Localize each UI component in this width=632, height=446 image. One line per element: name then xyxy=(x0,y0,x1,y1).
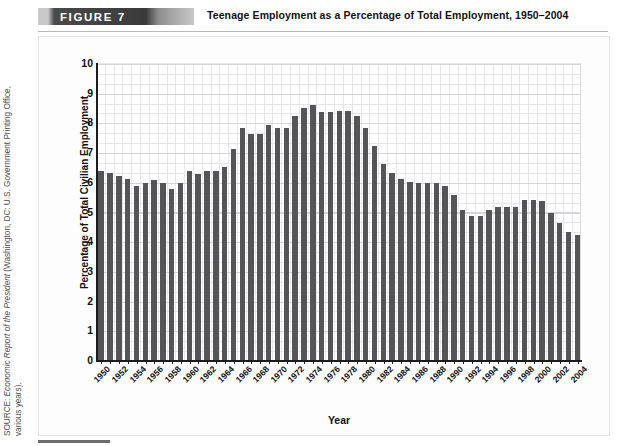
x-tickmark-1985 xyxy=(410,360,411,364)
x-tickmark-1968 xyxy=(260,360,261,364)
x-tickmark-2003 xyxy=(569,360,570,364)
x-tick-1976: 1976 xyxy=(321,364,342,385)
x-tickmark-1957 xyxy=(163,360,164,364)
x-tick-1964: 1964 xyxy=(215,364,236,385)
bar-1993 xyxy=(478,216,483,360)
bar-1987 xyxy=(425,183,430,360)
x-tick-1992: 1992 xyxy=(462,364,483,385)
bar-1960 xyxy=(187,171,192,360)
x-tickmark-1994 xyxy=(489,360,490,364)
x-tickmark-1964 xyxy=(225,360,226,364)
x-tickmark-1971 xyxy=(287,360,288,364)
x-tickmark-1962 xyxy=(207,360,208,364)
x-tickmark-1953 xyxy=(128,360,129,364)
x-tick-1988: 1988 xyxy=(427,364,448,385)
x-tick-2004: 2004 xyxy=(568,364,589,385)
x-tick-1972: 1972 xyxy=(286,364,307,385)
x-tickmark-1992 xyxy=(472,360,473,364)
bar-1989 xyxy=(442,186,447,360)
bar-2001 xyxy=(548,213,553,360)
bar-1965 xyxy=(231,149,236,360)
bar-1984 xyxy=(398,179,403,360)
bar-1983 xyxy=(389,173,394,360)
source-note: SOURCE: Economic Report of the President… xyxy=(0,36,29,436)
x-tickmark-1993 xyxy=(481,360,482,364)
chart-panel: 012345678910 Percentage of Total Civilia… xyxy=(38,36,610,436)
x-tickmark-1959 xyxy=(181,360,182,364)
x-tickmark-1982 xyxy=(384,360,385,364)
x-tick-1966: 1966 xyxy=(233,364,254,385)
bar-1974 xyxy=(310,105,315,360)
bar-1956 xyxy=(151,180,156,360)
x-tick-2002: 2002 xyxy=(550,364,571,385)
bar-1979 xyxy=(354,116,359,360)
x-tickmark-2004 xyxy=(578,360,579,364)
bar-1954 xyxy=(134,186,139,360)
x-tick-1956: 1956 xyxy=(145,364,166,385)
figure-badge: FIGURE 7 xyxy=(38,8,194,25)
x-tick-1974: 1974 xyxy=(304,364,325,385)
x-tickmark-1976 xyxy=(331,360,332,364)
x-tickmark-1958 xyxy=(172,360,173,364)
figure-title: Teenage Employment as a Percentage of To… xyxy=(207,9,569,21)
bar-1962 xyxy=(204,171,209,360)
footer-rule xyxy=(38,440,110,443)
bar-1997 xyxy=(513,207,518,360)
x-tickmark-1967 xyxy=(251,360,252,364)
x-tickmark-1995 xyxy=(498,360,499,364)
x-tickmark-1969 xyxy=(269,360,270,364)
bar-1995 xyxy=(495,207,500,360)
x-tickmark-1965 xyxy=(234,360,235,364)
x-tick-1952: 1952 xyxy=(110,364,131,385)
source-title-italic: Economic Report of the President xyxy=(3,274,12,396)
bar-1951 xyxy=(107,173,112,360)
bar-1999 xyxy=(531,200,536,360)
x-tickmark-1979 xyxy=(357,360,358,364)
bar-1966 xyxy=(240,128,245,360)
x-tickmark-1980 xyxy=(366,360,367,364)
x-tickmark-1960 xyxy=(190,360,191,364)
bar-1985 xyxy=(407,182,412,360)
x-tick-1982: 1982 xyxy=(374,364,395,385)
x-tickmark-1973 xyxy=(304,360,305,364)
bar-1992 xyxy=(469,216,474,360)
x-tick-1994: 1994 xyxy=(480,364,501,385)
bar-1957 xyxy=(160,183,165,360)
x-tickmark-1991 xyxy=(463,360,464,364)
x-tickmark-1984 xyxy=(401,360,402,364)
bar-1990 xyxy=(451,195,456,360)
source-note-line-2: various years). xyxy=(14,382,23,436)
bar-series xyxy=(97,63,582,360)
x-tick-1960: 1960 xyxy=(180,364,201,385)
bar-1978 xyxy=(345,111,350,360)
bar-2002 xyxy=(557,223,562,360)
bar-2000 xyxy=(539,201,544,360)
bar-1972 xyxy=(292,116,297,360)
x-tickmark-1963 xyxy=(216,360,217,364)
bar-2003 xyxy=(566,232,571,360)
x-tickmark-1996 xyxy=(507,360,508,364)
bar-1986 xyxy=(416,183,421,360)
x-tick-1978: 1978 xyxy=(339,364,360,385)
bar-1977 xyxy=(337,111,342,360)
x-tickmark-1987 xyxy=(428,360,429,364)
x-tickmark-1970 xyxy=(278,360,279,364)
bar-1988 xyxy=(434,183,439,360)
x-tickmark-1990 xyxy=(454,360,455,364)
bar-1958 xyxy=(169,189,174,360)
x-tick-1990: 1990 xyxy=(445,364,466,385)
x-tickmark-1951 xyxy=(110,360,111,364)
bar-1950 xyxy=(98,171,103,360)
bar-1953 xyxy=(125,179,130,360)
x-tickmark-1956 xyxy=(154,360,155,364)
bar-1961 xyxy=(195,174,200,360)
x-tick-1968: 1968 xyxy=(251,364,272,385)
bar-1991 xyxy=(460,210,465,360)
bar-1964 xyxy=(222,167,227,360)
x-tick-1996: 1996 xyxy=(498,364,519,385)
x-tickmark-1986 xyxy=(419,360,420,364)
bar-1975 xyxy=(319,112,324,360)
figure-badge-label: FIGURE 7 xyxy=(60,11,126,23)
y-tick-0: 0 xyxy=(71,354,93,366)
x-tickmark-1983 xyxy=(392,360,393,364)
